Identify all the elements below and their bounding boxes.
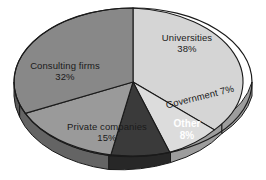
pie-chart-screenshot: Universities 38% Consulting firms 32% Pr… — [0, 0, 266, 180]
pie-chart-graphic — [0, 0, 266, 180]
